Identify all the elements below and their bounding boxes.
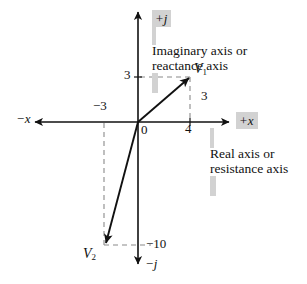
vector-v2-label-subscript: 2: [92, 252, 97, 262]
real-axis-negative-sign-label: −x: [16, 112, 31, 127]
vector-v1-label: V1: [194, 61, 207, 77]
vector-v2: [106, 122, 138, 243]
real-axis-caption-box: Real axis or resistance axis: [210, 128, 288, 196]
real-axis-caption: Real axis or resistance axis: [210, 128, 288, 194]
v1-vertical-component-label: 3: [201, 89, 208, 104]
imaginary-axis-negative-sign-label: −j: [145, 257, 157, 272]
tick-label-y-negative: −10: [146, 237, 166, 252]
complex-plane-figure: +j Imaginary axis or reactance axis +x R…: [0, 0, 307, 284]
imaginary-axis-caption: Imaginary axis or reactance axis: [152, 25, 247, 91]
imaginary-axis-caption-box: Imaginary axis or reactance axis: [152, 25, 247, 93]
vector-v1-label-name: V: [194, 61, 203, 76]
vector-v2-label: V2: [83, 246, 96, 262]
vector-v2-label-name: V: [83, 246, 92, 261]
real-axis-sign-text: +x: [236, 112, 258, 129]
real-axis-caption-line-2: resistance axis: [210, 161, 288, 176]
tick-label-x-positive: 4: [185, 122, 192, 137]
real-axis-caption-line-1: Real axis or: [210, 146, 288, 161]
tick-label-x-negative: −3: [93, 99, 107, 114]
tick-label-y-positive: 3: [124, 68, 131, 83]
real-axis-sign-label: +x: [236, 111, 258, 129]
vector-v1-label-subscript: 1: [203, 67, 208, 77]
imaginary-axis-caption-line-1: Imaginary axis or: [152, 43, 247, 58]
origin-label: 0: [141, 123, 148, 138]
